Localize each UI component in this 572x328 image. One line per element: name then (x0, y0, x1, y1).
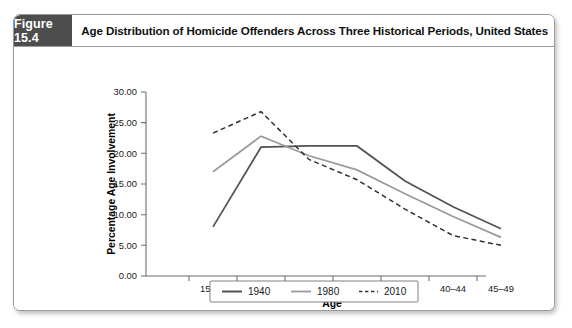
legend-label-1940: 1940 (248, 286, 271, 297)
y-axis-tick-labels: 30.00 25.00 20.00 15.00 10.00 5.00 0.00 (114, 86, 137, 281)
page-root: Figure 15.4 Age Distribution of Homicide… (0, 0, 572, 328)
y-axis-ticks (141, 92, 146, 276)
y-tick-label: 20.00 (114, 148, 137, 159)
figure-card: Figure 15.4 Age Distribution of Homicide… (13, 14, 555, 311)
y-tick-label: 30.00 (114, 86, 137, 97)
legend-container: 1940 1980 2010 (14, 277, 554, 307)
figure-number-badge: Figure 15.4 (14, 15, 72, 46)
chart-svg: 30.00 25.00 20.00 15.00 10.00 5.00 0.00 … (14, 47, 554, 311)
series-line-1940 (213, 146, 501, 229)
y-tick-label: 25.00 (114, 117, 137, 128)
series-line-2010 (213, 112, 501, 246)
y-axis-title: Percentage Age Involvement (106, 113, 117, 255)
figure-title: Age Distribution of Homicide Offenders A… (72, 15, 554, 46)
figure-header: Figure 15.4 Age Distribution of Homicide… (14, 15, 554, 47)
series-line-1980 (213, 136, 501, 237)
y-tick-label: 15.00 (114, 178, 137, 189)
line-chart: 30.00 25.00 20.00 15.00 10.00 5.00 0.00 … (14, 47, 554, 311)
y-tick-label: 5.00 (119, 240, 137, 251)
legend-label-2010: 2010 (384, 286, 407, 297)
figure-body: 30.00 25.00 20.00 15.00 10.00 5.00 0.00 … (14, 47, 554, 311)
y-tick-label: 10.00 (114, 209, 137, 220)
legend-label-1980: 1980 (317, 286, 340, 297)
